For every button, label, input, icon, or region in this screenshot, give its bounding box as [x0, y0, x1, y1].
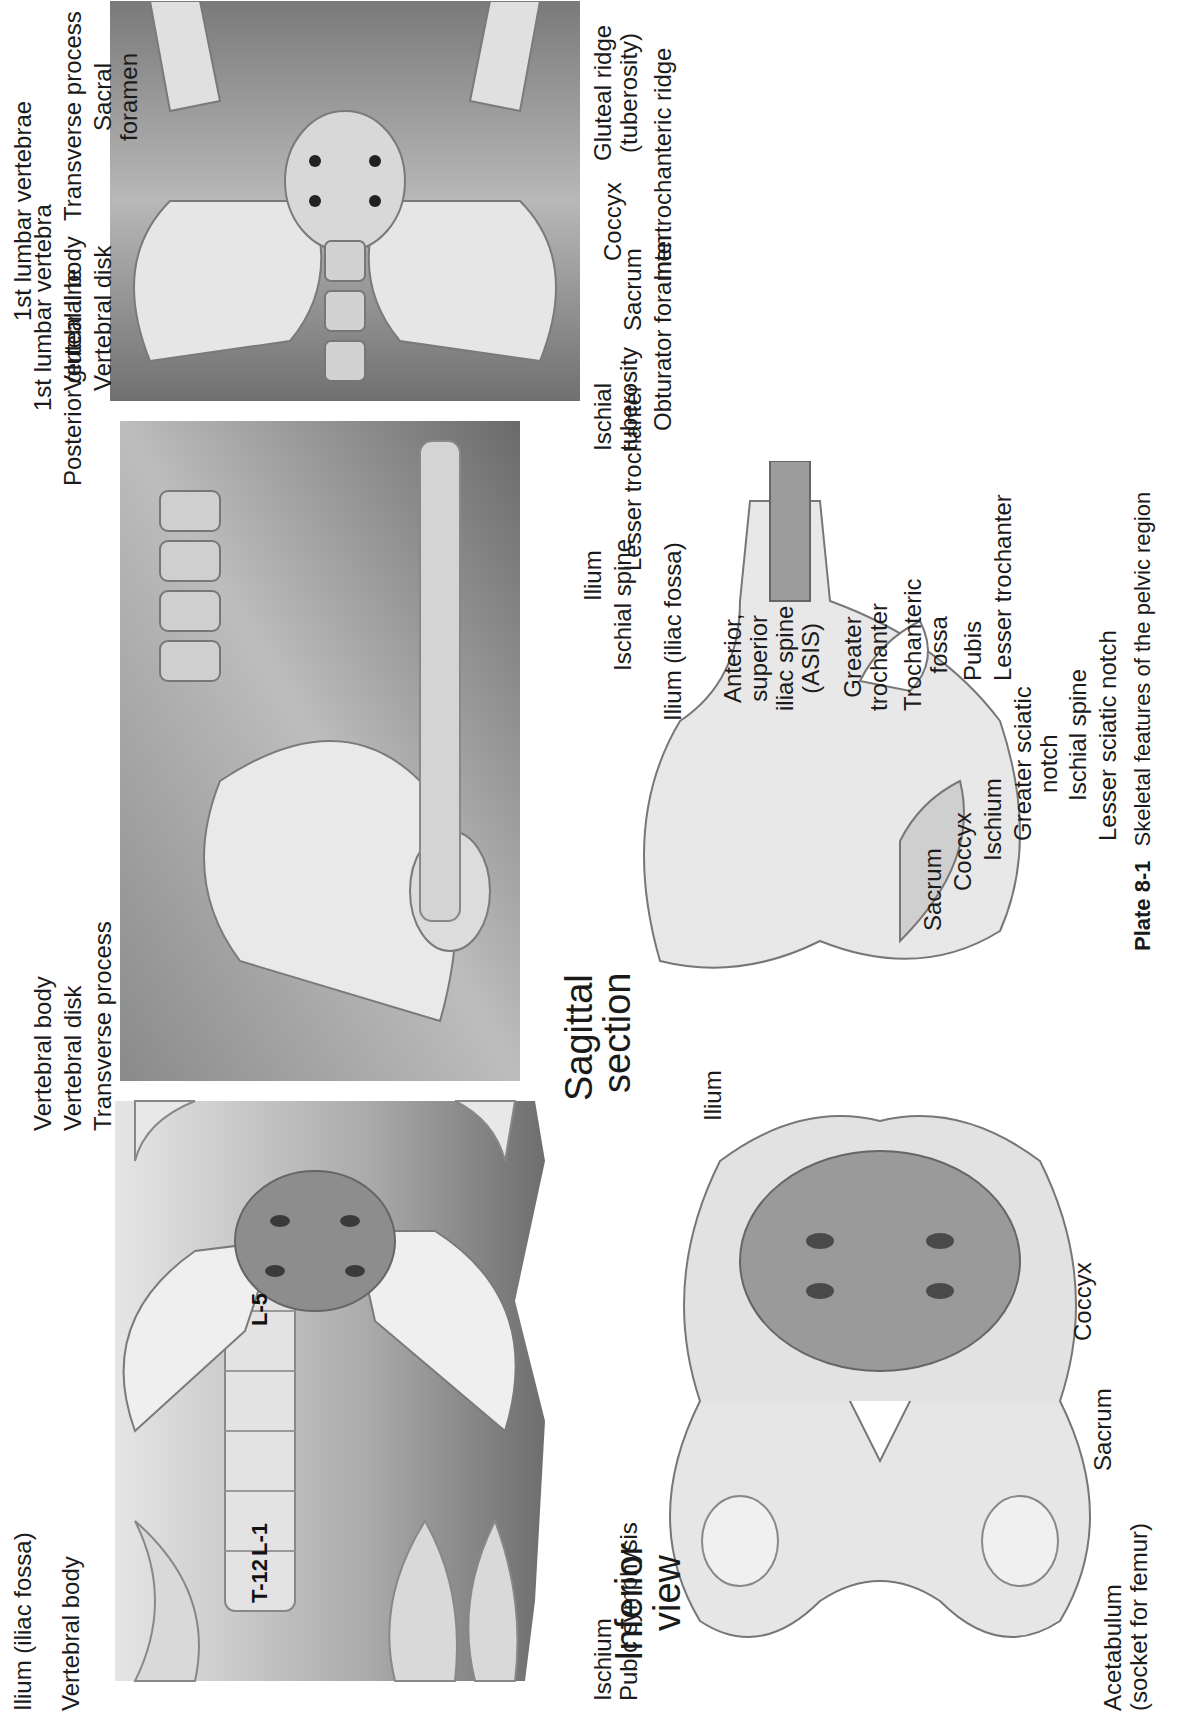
sagittal-section-title: Sagittal section — [560, 973, 636, 1101]
posterior-view-illustration — [110, 1, 580, 401]
inferior-pelvis-drawing — [640, 1101, 1120, 1661]
label-sag-greater-trochanter: Greater trochanter — [840, 603, 892, 711]
label-vertebral-body: Vertebral body — [58, 1556, 84, 1711]
sag-asis-line2: superior — [746, 606, 772, 711]
label-post-ischial-spine: Ischial spine — [610, 539, 636, 671]
sag-gt-line2: trochanter — [866, 603, 892, 711]
lateral-view-illustration — [120, 421, 520, 1081]
label-transverse-process: Transverse process — [90, 921, 116, 1131]
troch-fossa-line2: fossa — [926, 579, 952, 712]
label-gluteal-ridge: Gluteal ridge (tuberosity) — [590, 25, 642, 161]
label-post-transverse-process: Transverse process — [60, 11, 86, 221]
plate-number: Plate 8-1 — [1130, 861, 1155, 952]
rotated-page: T-12 L-1 L-5 Vertebral body Vertebral bo… — [0, 0, 1187, 1721]
sacral-line1: Sacral — [90, 53, 116, 141]
gluteal-line1: Gluteal ridge — [590, 25, 616, 161]
sag-asis-line1: Anterior, — [720, 606, 746, 711]
label-greater-sciatic-notch: Greater sciatic notch — [1010, 686, 1062, 841]
label-sacral-foramen: Sacral foramen — [90, 53, 142, 141]
vertebra-tag-l5: L-5 — [247, 1293, 273, 1326]
inferior-title-line2: view — [648, 1543, 686, 1661]
sagittal-title-line2: section — [598, 973, 636, 1101]
label-vertebral-disk: Vertebral disk — [60, 986, 86, 1131]
troch-fossa-line1: Trochanteric — [900, 579, 926, 712]
sacral-line2: foramen — [116, 53, 142, 141]
label-lat-vertebral-body: Vertebral body — [60, 236, 86, 391]
sag-gt-line1: Greater — [840, 603, 866, 711]
label-post-first-lumbar: 1st lumbar vertebrae — [10, 101, 36, 321]
label-sag-pubis: Pubis — [960, 621, 986, 681]
lateral-pelvis-drawing — [120, 421, 520, 1081]
label-sag-lesser-trochanter: Lesser trochanter — [990, 494, 1016, 681]
label-lesser-sciatic-notch: Lesser sciatic notch — [1095, 630, 1121, 841]
inferior-view-title: Inferior view — [610, 1543, 686, 1661]
anterior-view-illustration: T-12 L-1 L-5 — [75, 1081, 575, 1721]
anterior-label-block: Ilium (iliac fossa) — [10, 1091, 36, 1711]
label-sag-sacrum: Sacrum — [920, 848, 946, 931]
posterior-pelvis-drawing — [110, 1, 580, 401]
ischial-tub-line1: Ischial — [590, 347, 616, 451]
label-sag-ischium: Ischium — [980, 778, 1006, 861]
label-acetabulum: Acetabulum (socket for femur) — [1100, 1523, 1152, 1711]
label-post-ilium: Ilium — [580, 550, 606, 601]
label-sag-coccyx: Coccyx — [950, 812, 976, 891]
greater-sciatic-line2: notch — [1036, 686, 1062, 841]
inferior-view-illustration — [640, 1101, 1120, 1661]
figure-caption: Plate 8-1Skeletal features of the pelvic… — [1130, 492, 1156, 951]
label-sag-asis: Anterior, superior iliac spine (ASIS) — [720, 606, 824, 711]
label-post-obturator-foramen: Obturator foramen — [650, 235, 676, 431]
label-post-sacrum: Sacrum — [620, 248, 646, 331]
caption-text: Skeletal features of the pelvic region — [1130, 492, 1155, 847]
acetabulum-line1: Acetabulum — [1100, 1523, 1126, 1711]
label-lat-vertebral-disk: Vertebral disk — [90, 246, 116, 391]
label-trochanteric-fossa: Trochanteric fossa — [900, 579, 952, 712]
gluteal-line2: (tuberosity) — [616, 25, 642, 161]
label-inf-ilium: Ilium — [700, 1070, 726, 1121]
greater-sciatic-line1: Greater sciatic — [1010, 686, 1036, 841]
inferior-title-line1: Inferior — [610, 1543, 648, 1661]
label-inf-sacrum: Sacrum — [1090, 1388, 1116, 1471]
sagittal-title-line1: Sagittal — [560, 973, 598, 1101]
vertebra-tag-l1: L-1 — [247, 1523, 273, 1556]
sag-asis-line3: iliac spine — [772, 606, 798, 711]
vertebra-tag-t12: T-12 — [247, 1559, 273, 1603]
label-sag-ilium: Ilium (iliac fossa) — [660, 542, 686, 721]
label-sag-ischial-spine: Ischial spine — [1065, 669, 1091, 801]
label-inf-coccyx: Coccyx — [1070, 1262, 1096, 1341]
acetabulum-line2: (socket for femur) — [1126, 1523, 1152, 1711]
sag-asis-line4: (ASIS) — [798, 606, 824, 711]
anterior-pelvis-drawing — [75, 1081, 575, 1721]
label-ant-ilium: Ilium (iliac fossa) — [10, 1091, 36, 1711]
